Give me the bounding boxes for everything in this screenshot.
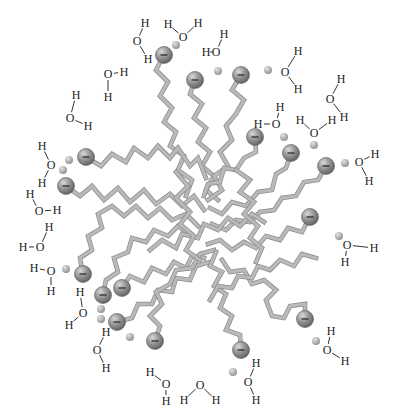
counterion-icon <box>264 66 272 74</box>
oxygen-atom: O <box>66 111 75 125</box>
headgroup-icon <box>283 145 300 162</box>
oxygen-atom: O <box>196 378 205 392</box>
headgroup-icon <box>75 266 92 283</box>
water-molecule: OHH <box>341 238 379 269</box>
hydrogen-atom: H <box>212 393 221 407</box>
hydrogen-atom: H <box>180 393 189 407</box>
headgroup-icon <box>147 333 164 350</box>
hydrogen-atom: H <box>340 110 349 124</box>
hydrogen-atom: H <box>252 356 261 370</box>
hydrogen-atom: H <box>162 394 171 408</box>
hydrogen-atom: H <box>220 27 229 41</box>
counterion-icon <box>214 67 222 75</box>
hydrogen-atom: H <box>370 241 379 255</box>
oxygen-atom: O <box>162 377 171 391</box>
hydrogen-atom: H <box>84 119 93 133</box>
micelle-diagram: OHHOHHOHHOHHOHHOHHOHHOHHOHHOHHOHHOHHOHHO… <box>0 0 396 413</box>
water-molecule: OHH <box>38 139 56 190</box>
headgroup-icon <box>95 287 112 304</box>
oxygen-atom: O <box>343 238 352 252</box>
water-molecule: OHH <box>281 44 303 96</box>
hydrogen-atom: H <box>19 240 28 254</box>
oxygen-atom: O <box>179 30 188 44</box>
oxygen-atom: O <box>35 204 44 218</box>
oxygen-atom: O <box>133 34 142 48</box>
water-molecule: OHH <box>355 147 380 188</box>
water-molecule: OHH <box>19 220 54 254</box>
water-molecule: OHH <box>30 261 56 298</box>
hydrogen-atom: H <box>341 255 350 269</box>
counterion-icon <box>97 315 105 323</box>
hydrogen-atom: H <box>120 65 129 79</box>
hydrogen-atom: H <box>102 325 111 339</box>
hydrogen-atom: H <box>102 361 111 375</box>
oxygen-atom: O <box>244 375 253 389</box>
water-molecule: OHH <box>26 187 62 218</box>
water-molecule: OHH <box>104 65 129 104</box>
headgroup-icon <box>58 178 75 195</box>
hydrogen-atom: H <box>53 203 62 217</box>
hydrocarbon-chain <box>156 55 192 196</box>
oxygen-atom: O <box>47 264 56 278</box>
water-molecule: OHH <box>66 88 93 133</box>
water-molecule: OHH <box>146 365 171 408</box>
hydrogen-atom: H <box>38 176 47 190</box>
counterion-icon <box>59 166 67 174</box>
oxygen-atom: O <box>310 126 319 140</box>
headgroup-icon <box>297 311 314 328</box>
water-molecule: OHH <box>323 324 350 368</box>
oxygen-atom: O <box>47 158 56 172</box>
counterion-icon <box>312 337 320 345</box>
headgroup-icon <box>187 72 204 89</box>
hydrogen-atom: H <box>72 88 81 102</box>
counterion-icon <box>341 159 349 167</box>
headgroup-icon <box>109 314 126 331</box>
hydrogen-atom: H <box>252 393 261 407</box>
hydrogen-atom: H <box>294 82 303 96</box>
water-molecule: OHH <box>296 113 337 140</box>
oxygen-atom: O <box>93 343 102 357</box>
hydrogen-atom: H <box>65 318 74 332</box>
water-molecule: OHH <box>202 27 229 59</box>
headgroup-icon <box>318 158 335 175</box>
headgroup-icon <box>156 47 173 64</box>
counterion-icon <box>62 265 70 273</box>
hydrogen-atom: H <box>76 285 85 299</box>
water-molecule: OHH <box>180 378 221 407</box>
oxygen-atom: O <box>272 117 281 131</box>
hydrogen-atom: H <box>141 16 150 30</box>
hydrogen-atom: H <box>371 147 380 161</box>
oxygen-atom: O <box>79 306 88 320</box>
hydrogen-atom: H <box>144 52 153 66</box>
oxygen-atom: O <box>104 67 113 81</box>
hydrogen-atom: H <box>45 220 54 234</box>
counterion-icon <box>65 156 73 164</box>
hydrogen-atom: H <box>328 113 337 127</box>
counterion-icon <box>280 133 288 141</box>
headgroup-icon <box>247 129 264 146</box>
oxygen-atom: O <box>355 155 364 169</box>
water-molecule: OHH <box>164 16 203 44</box>
headgroup-icon <box>114 280 131 297</box>
water-molecule: OHH <box>244 356 261 407</box>
oxygen-atom: O <box>323 343 332 357</box>
hydrocarbon-chain <box>86 146 206 178</box>
hydrogen-atom: H <box>276 100 285 114</box>
counterion-icon <box>97 305 105 313</box>
oxygen-atom: O <box>36 240 45 254</box>
hydrogen-atom: H <box>30 261 39 275</box>
water-molecule: OHH <box>93 325 111 375</box>
oxygen-atom: O <box>281 65 290 79</box>
hydrogen-atom: H <box>327 324 336 338</box>
hydrogen-atom: H <box>296 113 305 127</box>
oxygen-atom: O <box>326 92 335 106</box>
headgroup-icon <box>302 209 319 226</box>
hydrogen-atom: H <box>337 72 346 86</box>
hydrogen-atom: H <box>365 174 374 188</box>
water-molecule: OHH <box>65 285 88 332</box>
oxygen-atom: O <box>212 45 221 59</box>
hydrogen-atom: H <box>164 17 173 31</box>
hydrogen-atom: H <box>294 44 303 58</box>
hydrogen-atom: H <box>38 139 47 153</box>
hydrogen-atom: H <box>202 45 211 59</box>
